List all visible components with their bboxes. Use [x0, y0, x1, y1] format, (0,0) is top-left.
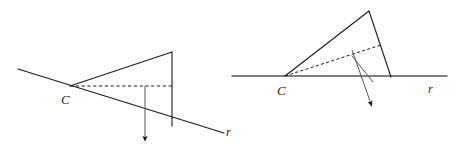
right-upper-edge: [285, 11, 369, 76]
right-dashed-axis: [285, 45, 381, 76]
left-line-label-r: r: [226, 125, 231, 139]
right-slant-edge: [369, 11, 391, 77]
left-diagram: C r: [18, 52, 231, 139]
left-upper-edge: [70, 52, 172, 86]
right-arrow-vector: [352, 50, 371, 104]
geometry-figure-canvas: C r C r: [0, 0, 459, 159]
figure-container: C r C r: [0, 0, 459, 159]
left-line-r: [18, 69, 224, 133]
right-apex-label-c: C: [277, 83, 286, 98]
left-apex-label-c: C: [61, 92, 70, 107]
right-diagram: C r: [232, 11, 447, 104]
right-line-label-r: r: [428, 82, 433, 96]
